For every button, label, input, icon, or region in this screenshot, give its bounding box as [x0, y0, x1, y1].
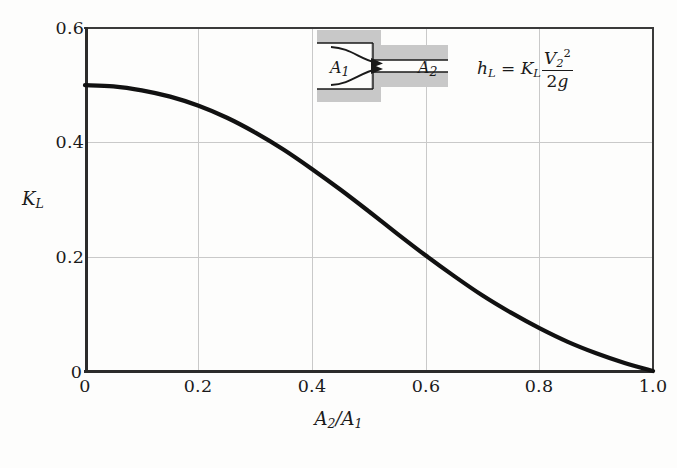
inset-label-A1-sub: 1 [342, 64, 350, 79]
ytick-label-0.2: 0.2 [56, 247, 84, 267]
inset-label-A2-sub: 2 [430, 64, 438, 79]
equation-hl-sub: L [488, 66, 496, 80]
inset-label-A2: A2 [418, 58, 438, 79]
equation-g-var: g [557, 71, 568, 91]
equation-two: 2 [547, 71, 558, 91]
xtick-label-0.2: 0.2 [184, 376, 212, 396]
equation-numerator: V22 [542, 47, 573, 71]
y-axis-title: KL [22, 188, 44, 211]
xtick-label-0.4: 0.4 [298, 376, 326, 396]
ytick-label-0.6: 0.6 [56, 18, 84, 38]
x-axis-title-num-sub: 2 [328, 416, 336, 431]
x-axis-title-den-sub: 1 [355, 416, 363, 431]
ytick-label-0: 0 [71, 362, 82, 382]
equation-hl-var: h [477, 58, 488, 78]
inset-wall-lower-large [317, 89, 375, 102]
equation-kl-sub: L [533, 66, 541, 80]
y-axis-title-sub: L [35, 196, 43, 211]
equation-kl-var: K [521, 58, 534, 78]
equation-v-sub: 2 [556, 56, 563, 70]
ytick-label-0.4: 0.4 [56, 132, 84, 152]
data-curve-path [85, 85, 653, 371]
equation-equals: = [501, 58, 515, 78]
x-axis-title: A2/A1 [315, 408, 363, 431]
equation-fraction: V222g [542, 47, 573, 91]
inset-label-A2-var: A [418, 58, 430, 77]
inset-label-A1-var: A [330, 58, 342, 77]
equation-v-sup: 2 [564, 46, 571, 60]
xtick-label-1.0: 1.0 [639, 376, 667, 396]
xtick-label-0.8: 0.8 [525, 376, 553, 396]
xtick-label-0.6: 0.6 [412, 376, 440, 396]
figure-canvas: 0 0.2 0.4 0.6 0.8 1.0 0.6 0.4 0.2 0 KL A… [0, 0, 677, 468]
y-axis-title-var: K [22, 188, 35, 209]
equation-v-var: V [544, 48, 556, 68]
x-axis-title-den: A [342, 408, 355, 429]
x-axis-title-num: A [315, 408, 328, 429]
loss-equation: hL = KLV222g [477, 48, 574, 92]
equation-denominator: 2g [542, 71, 573, 91]
inset-wall-upper-large [317, 30, 375, 43]
inset-label-A1: A1 [330, 58, 350, 79]
